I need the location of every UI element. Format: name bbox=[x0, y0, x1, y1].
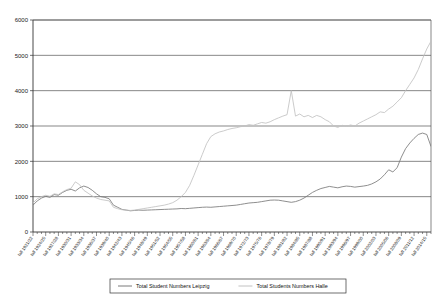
y-tick-label: 4000 bbox=[15, 88, 29, 94]
legend-label-halle: Total Students Numbers Halle bbox=[256, 283, 327, 289]
y-tick-label: 2000 bbox=[15, 159, 29, 165]
line-chart: 0100020003000400050006000fall 1921/22fal… bbox=[0, 0, 443, 303]
y-tick-label: 3000 bbox=[15, 123, 29, 129]
y-tick-label: 5000 bbox=[15, 53, 29, 59]
chart-container: 0100020003000400050006000fall 1921/22fal… bbox=[0, 0, 443, 303]
y-tick-label: 0 bbox=[25, 229, 29, 235]
legend-label-leipzig: Total Student Numbers Leipzig bbox=[136, 283, 209, 289]
y-tick-label: 6000 bbox=[15, 17, 29, 23]
y-tick-label: 1000 bbox=[15, 194, 29, 200]
